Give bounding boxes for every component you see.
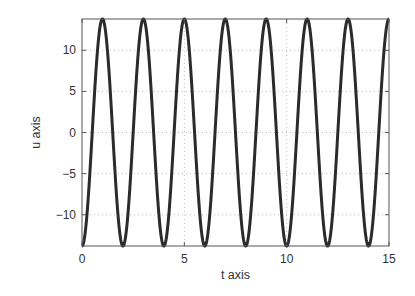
y-axis-label: u axis <box>29 116 43 149</box>
y-tick-label: −10 <box>56 208 77 222</box>
y-tick-label: 10 <box>63 43 77 57</box>
x-axis-label: t axis <box>221 268 250 282</box>
x-tick-label: 10 <box>280 252 294 266</box>
y-tick-label: 5 <box>69 84 76 98</box>
x-tick-label: 5 <box>181 252 188 266</box>
y-tick-label: 0 <box>69 126 76 140</box>
x-tick-label: 0 <box>79 252 86 266</box>
chart-canvas: 051015 −10−50510 t axis u axis <box>0 0 415 296</box>
chart-figure: 051015 −10−50510 t axis u axis <box>0 0 415 296</box>
y-tick-label: −5 <box>62 167 76 181</box>
x-tick-label: 15 <box>382 252 396 266</box>
